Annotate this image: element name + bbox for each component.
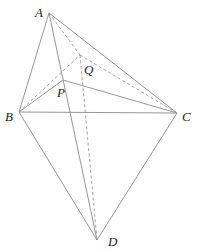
label-p: P: [56, 85, 65, 100]
dashed-edges: [19, 13, 177, 240]
edge-ad: [49, 13, 97, 240]
point-labels: A B C D P Q: [5, 5, 191, 249]
label-b: B: [5, 109, 13, 124]
edge-ac: [49, 13, 177, 113]
edge-bc: [19, 112, 177, 113]
edge-qc-dashed: [80, 55, 177, 113]
edge-cd: [97, 113, 177, 240]
edge-qd-dashed: [80, 55, 97, 240]
geometry-diagram: A B C D P Q: [0, 0, 198, 251]
edge-pc: [63, 80, 177, 113]
solid-edges: [19, 13, 177, 240]
label-c: C: [182, 109, 191, 124]
edge-ab: [19, 13, 49, 112]
label-q: Q: [84, 62, 94, 77]
edge-bq-dashed: [19, 55, 80, 112]
edge-bd: [19, 112, 97, 240]
label-a: A: [34, 5, 43, 20]
label-d: D: [107, 234, 118, 249]
